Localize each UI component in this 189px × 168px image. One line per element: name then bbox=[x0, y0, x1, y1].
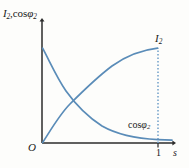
curve-cosphi2 bbox=[43, 48, 172, 140]
curve-label-i2-sub: 2 bbox=[159, 38, 163, 46]
curve-label-i2: I2 bbox=[155, 33, 162, 44]
x-axis-label: s bbox=[173, 148, 177, 158]
x-tick-label-one: 1 bbox=[156, 148, 161, 158]
y-axis-label-separator: ,cos bbox=[10, 7, 27, 19]
y-axis-label-phi-sub: 2 bbox=[33, 13, 37, 21]
curve-label-cos-main: cos bbox=[128, 119, 141, 130]
curve-label-cosphi2: cosφ2 bbox=[128, 120, 150, 130]
curve-label-cos-sub: 2 bbox=[147, 123, 150, 130]
origin-label: O bbox=[28, 142, 36, 153]
figure-container: I2,cosφ2 I2 cosφ2 O 1 s bbox=[0, 0, 189, 168]
y-axis-label: I2,cosφ2 bbox=[3, 8, 37, 19]
